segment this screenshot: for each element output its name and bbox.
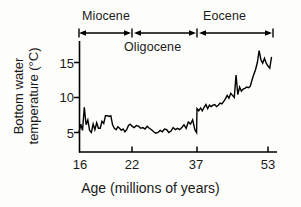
temperature-series-line — [79, 51, 272, 134]
epoch-label-eocene: Eocene — [203, 9, 246, 23]
x-tick-label-16: 16 — [69, 157, 91, 172]
miocene-left-arrowhead — [79, 30, 86, 36]
y-axis-title-line1: Bottom water — [11, 16, 26, 176]
y-axis-title-line2: temperature (°C) — [26, 16, 41, 176]
oligocene-left-arrowhead — [134, 30, 141, 36]
y-tick-label-10: 10 — [48, 90, 74, 105]
x-tick-label-53: 53 — [257, 157, 279, 172]
y-tick-label-5: 5 — [48, 126, 74, 141]
y-axis-title: Bottom water temperature (°C) — [11, 16, 41, 176]
chart-canvas — [0, 0, 301, 207]
eocene-left-arrowhead — [199, 30, 206, 36]
y-tick-label-15: 15 — [48, 56, 74, 71]
eocene-right-arrowhead — [265, 30, 272, 36]
oligocene-right-arrowhead — [189, 30, 196, 36]
epoch-label-oligocene: Oligocene — [124, 40, 181, 54]
x-axis-title: Age (millions of years) — [0, 180, 301, 196]
x-tick-label-22: 22 — [121, 157, 143, 172]
x-tick-label-37: 37 — [185, 157, 207, 172]
epoch-arrow-bars — [79, 29, 273, 38]
plot-axes — [74, 41, 277, 153]
miocene-right-arrowhead — [124, 30, 131, 36]
epoch-label-miocene: Miocene — [82, 9, 130, 23]
bottom-water-temperature-chart: Miocene Eocene Oligocene 15 10 5 16 22 3… — [0, 0, 301, 207]
